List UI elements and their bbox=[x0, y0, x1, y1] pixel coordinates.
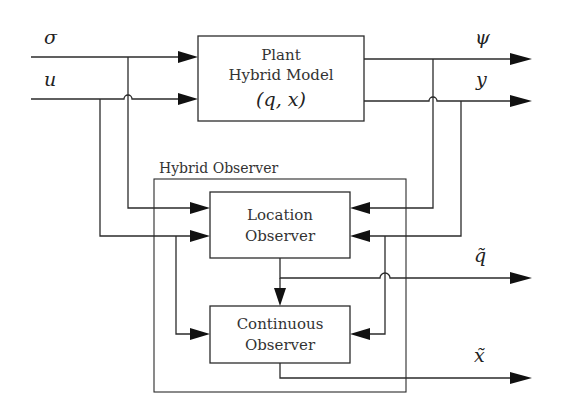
u-arrowhead-icon bbox=[178, 93, 198, 105]
location-observer-label-line2: Observer bbox=[245, 227, 316, 245]
u-feed-arrowhead-icon bbox=[190, 230, 210, 242]
sigma-label: σ bbox=[44, 26, 58, 48]
psi-feed-arrowhead-icon bbox=[350, 202, 370, 214]
location-observer-block bbox=[210, 192, 350, 258]
hybrid-observer-block-diagram: Hybrid Observer σ u Plant Hybrid Model (… bbox=[0, 0, 563, 410]
x-tilde-label: x̃ bbox=[474, 344, 485, 366]
sigma-feed-line bbox=[128, 57, 192, 208]
y-continuous-arrowhead-icon bbox=[350, 328, 370, 340]
u-continuous-arrowhead-icon bbox=[190, 328, 210, 340]
y-arrowhead-icon bbox=[510, 95, 532, 107]
x-tilde-arrowhead-icon bbox=[510, 372, 532, 384]
u-label: u bbox=[44, 68, 56, 90]
q-tilde-arrowhead-icon bbox=[510, 272, 532, 284]
y-continuous-feed-line bbox=[368, 236, 385, 334]
hybrid-observer-title: Hybrid Observer bbox=[159, 160, 278, 176]
y-feed-arrowhead-icon bbox=[350, 230, 370, 242]
location-to-continuous-arrowhead-icon bbox=[274, 288, 286, 306]
continuous-observer-label-line1: Continuous bbox=[237, 315, 324, 333]
psi-feed-line bbox=[368, 59, 433, 208]
plant-label-line1: Plant bbox=[261, 46, 301, 64]
y-feed-line bbox=[368, 101, 461, 236]
psi-label: ψ bbox=[475, 26, 491, 48]
u-input-line bbox=[31, 95, 180, 99]
y-output-line bbox=[364, 97, 512, 101]
y-label: y bbox=[475, 68, 487, 90]
sigma-feed-arrowhead-icon bbox=[190, 202, 210, 214]
location-observer-label-line1: Location bbox=[247, 206, 313, 224]
continuous-observer-label-line2: Observer bbox=[245, 336, 316, 354]
psi-arrowhead-icon bbox=[510, 53, 532, 65]
u-continuous-feed-line bbox=[176, 236, 192, 334]
sigma-arrowhead-icon bbox=[178, 51, 198, 63]
plant-state-label: (q, x) bbox=[256, 88, 306, 110]
q-tilde-label: q̃ bbox=[474, 244, 486, 266]
plant-label-line2: Hybrid Model bbox=[228, 66, 333, 84]
